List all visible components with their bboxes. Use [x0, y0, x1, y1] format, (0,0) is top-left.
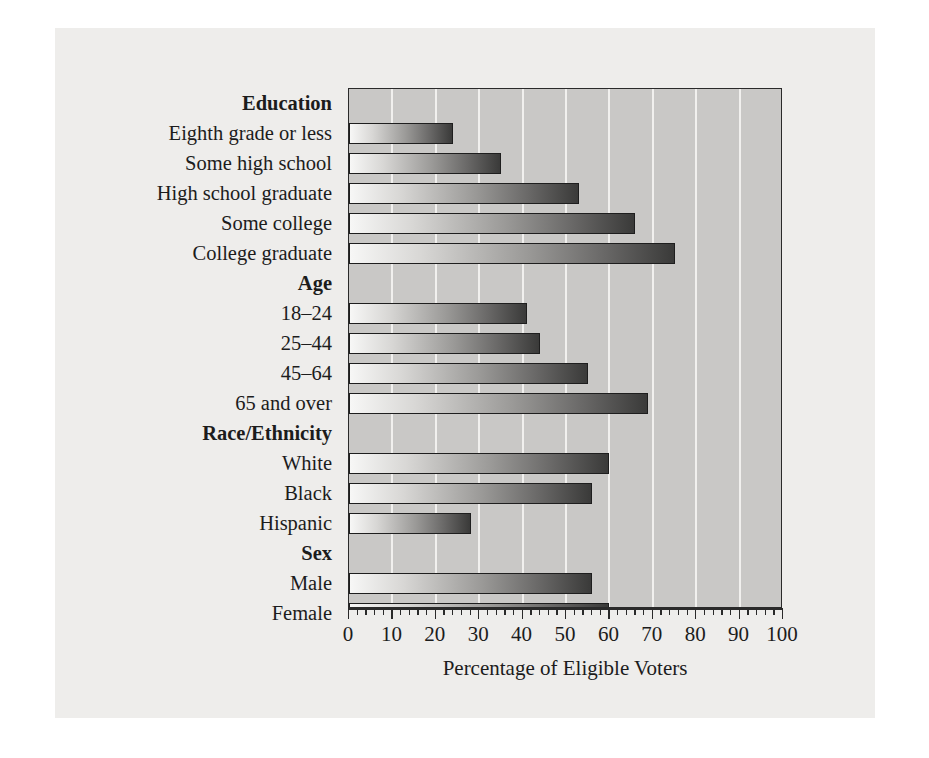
- minor-tick: [634, 608, 635, 615]
- group-label: Race/Ethnicity: [202, 418, 332, 448]
- minor-tick: [617, 608, 618, 615]
- major-tick: [739, 608, 740, 619]
- minor-tick: [591, 608, 592, 615]
- x-tick-label: 30: [468, 622, 489, 647]
- major-tick: [348, 608, 349, 619]
- category-label: 18–24: [281, 298, 332, 328]
- minor-tick: [461, 608, 462, 615]
- category-label: Some high school: [185, 148, 332, 178]
- bar: [349, 183, 579, 204]
- minor-tick: [687, 608, 688, 615]
- major-tick: [391, 608, 392, 619]
- minor-tick: [417, 608, 418, 615]
- major-tick: [435, 608, 436, 619]
- bar: [349, 453, 609, 474]
- x-tick-label: 90: [728, 622, 749, 647]
- bar: [349, 513, 471, 534]
- category-label: High school graduate: [157, 178, 332, 208]
- major-tick: [652, 608, 653, 619]
- category-label: College graduate: [193, 238, 332, 268]
- minor-tick: [747, 608, 748, 615]
- minor-tick: [409, 608, 410, 615]
- category-label: Some college: [221, 208, 332, 238]
- bar-row: [349, 179, 781, 209]
- minor-tick: [365, 608, 366, 615]
- minor-tick: [765, 608, 766, 615]
- minor-tick: [452, 608, 453, 615]
- x-tick-label: 80: [685, 622, 706, 647]
- minor-tick: [400, 608, 401, 615]
- category-label: Hispanic: [259, 508, 332, 538]
- minor-tick: [443, 608, 444, 615]
- category-label: Black: [284, 478, 332, 508]
- bar: [349, 573, 592, 594]
- bar: [349, 363, 588, 384]
- minor-tick: [582, 608, 583, 615]
- x-tick-label: 60: [598, 622, 619, 647]
- minor-tick: [643, 608, 644, 615]
- minor-tick: [669, 608, 670, 615]
- minor-tick: [600, 608, 601, 615]
- minor-tick: [678, 608, 679, 615]
- bar: [349, 333, 540, 354]
- bar: [349, 483, 592, 504]
- bar-row: [349, 239, 781, 269]
- major-tick: [522, 608, 523, 619]
- minor-tick: [713, 608, 714, 615]
- major-tick: [782, 608, 783, 619]
- group-spacer-row: [349, 269, 781, 299]
- x-tick-label: 70: [641, 622, 662, 647]
- bar-row: [349, 149, 781, 179]
- minor-tick: [539, 608, 540, 615]
- category-label: Female: [272, 598, 332, 628]
- bar-row: [349, 119, 781, 149]
- group-label: Education: [242, 88, 332, 118]
- bar: [349, 153, 501, 174]
- category-label: 25–44: [281, 328, 332, 358]
- x-tick-label: 0: [343, 622, 354, 647]
- major-tick: [478, 608, 479, 619]
- minor-tick: [556, 608, 557, 615]
- minor-tick: [496, 608, 497, 615]
- major-tick: [695, 608, 696, 619]
- x-axis: 0102030405060708090100 Percentage of Eli…: [348, 608, 782, 708]
- category-label: 65 and over: [235, 388, 332, 418]
- group-spacer-row: [349, 539, 781, 569]
- minor-tick: [756, 608, 757, 615]
- figure: EducationEighth grade or lessSome high s…: [55, 28, 875, 718]
- minor-tick: [470, 608, 471, 615]
- x-tick-label: 50: [555, 622, 576, 647]
- bar: [349, 393, 648, 414]
- category-label: Male: [290, 568, 332, 598]
- bar-row: [349, 509, 781, 539]
- group-spacer-row: [349, 89, 781, 119]
- x-tick-label: 20: [424, 622, 445, 647]
- bar: [349, 123, 453, 144]
- minor-tick: [530, 608, 531, 615]
- minor-tick: [721, 608, 722, 615]
- bar-row: [349, 299, 781, 329]
- plot-area: [348, 88, 782, 608]
- group-label: Age: [298, 268, 332, 298]
- major-tick: [608, 608, 609, 619]
- minor-tick: [626, 608, 627, 615]
- category-label: Eighth grade or less: [169, 118, 332, 148]
- category-axis-labels: EducationEighth grade or lessSome high s…: [55, 88, 340, 608]
- minor-tick: [704, 608, 705, 615]
- major-tick: [565, 608, 566, 619]
- bar: [349, 213, 635, 234]
- bar-row: [349, 389, 781, 419]
- group-spacer-row: [349, 419, 781, 449]
- minor-tick: [357, 608, 358, 615]
- minor-tick: [574, 608, 575, 615]
- bar-row: [349, 599, 781, 608]
- minor-tick: [374, 608, 375, 615]
- bar-row: [349, 569, 781, 599]
- minor-tick: [730, 608, 731, 615]
- bar-row: [349, 479, 781, 509]
- minor-tick: [426, 608, 427, 615]
- minor-tick: [487, 608, 488, 615]
- bar-row: [349, 329, 781, 359]
- category-label: White: [282, 448, 332, 478]
- minor-tick: [504, 608, 505, 615]
